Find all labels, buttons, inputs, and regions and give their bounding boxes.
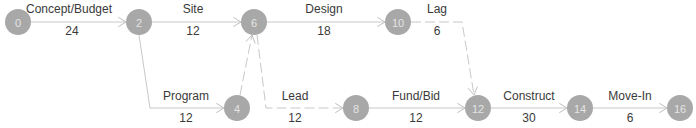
edge-name-construct: Construct bbox=[503, 89, 555, 103]
node-10: 10 bbox=[385, 9, 411, 35]
edge-labels-layer: Concept/Budget24Site12Design18Lag6Progra… bbox=[26, 2, 652, 125]
node-label: 16 bbox=[674, 103, 686, 115]
edge-duration-move-in: 6 bbox=[627, 111, 634, 125]
node-label: 0 bbox=[15, 17, 21, 29]
edge-lag bbox=[411, 22, 474, 95]
edge-duration-fund-bid: 12 bbox=[409, 111, 423, 125]
edge-duration-concept-budget: 24 bbox=[65, 24, 79, 38]
node-2: 2 bbox=[126, 9, 152, 35]
activity-network-diagram: Concept/Budget24Site12Design18Lag6Progra… bbox=[0, 0, 696, 128]
edge-duration-program: 12 bbox=[179, 111, 193, 125]
node-6: 6 bbox=[241, 9, 267, 35]
edge-name-lead: Lead bbox=[282, 89, 309, 103]
node-4: 4 bbox=[224, 95, 250, 121]
edge-duration-site: 12 bbox=[186, 24, 200, 38]
nodes-layer: 0261048121416 bbox=[5, 9, 693, 121]
node-14: 14 bbox=[567, 95, 593, 121]
edge-duration-lag: 6 bbox=[434, 24, 441, 38]
edge-duration-lead: 12 bbox=[288, 111, 302, 125]
node-label: 2 bbox=[136, 17, 142, 29]
node-12: 12 bbox=[465, 95, 491, 121]
edge-name-move-in: Move-In bbox=[608, 89, 651, 103]
edge-name-fund-bid: Fund/Bid bbox=[392, 89, 440, 103]
edge-name-program: Program bbox=[163, 89, 209, 103]
edge-dependency bbox=[240, 35, 252, 95]
node-label: 4 bbox=[234, 103, 240, 115]
edge-name-site: Site bbox=[183, 2, 204, 16]
edge-name-design: Design bbox=[305, 2, 342, 16]
arrowhead-icon bbox=[246, 35, 255, 43]
node-8: 8 bbox=[343, 95, 369, 121]
edge-name-concept-budget: Concept/Budget bbox=[26, 2, 113, 16]
node-label: 8 bbox=[353, 103, 359, 115]
node-label: 14 bbox=[574, 103, 586, 115]
node-16: 16 bbox=[667, 95, 693, 121]
node-label: 10 bbox=[392, 17, 404, 29]
edge-duration-design: 18 bbox=[317, 24, 331, 38]
edge-name-lag: Lag bbox=[427, 2, 447, 16]
node-0: 0 bbox=[5, 9, 31, 35]
node-label: 6 bbox=[251, 17, 257, 29]
node-label: 12 bbox=[472, 103, 484, 115]
edge-duration-construct: 30 bbox=[522, 111, 536, 125]
